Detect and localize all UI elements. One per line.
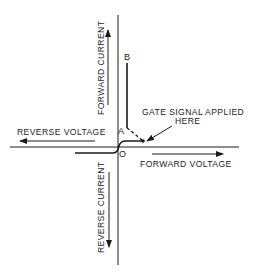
reverse-voltage-label: REVERSE VOLTAGE — [17, 127, 106, 137]
gate-annotation-line2: HERE — [175, 116, 200, 126]
gate-trigger-point — [141, 139, 145, 143]
point-b-label: B — [124, 52, 130, 62]
forward-current-label: FORWARD CURRENT — [96, 20, 106, 115]
point-a-label: A — [118, 126, 124, 136]
forward-voltage-label: FORWARD VOLTAGE — [140, 159, 232, 169]
switching-transition-dashed — [127, 128, 143, 141]
gate-signal-arrow — [147, 126, 172, 141]
scr-characteristic-diagram: FORWARD CURRENT REVERSE CURRENT REVERSE … — [0, 0, 258, 278]
origin-label: O — [119, 149, 126, 159]
reverse-current-label: REVERSE CURRENT — [96, 161, 106, 253]
